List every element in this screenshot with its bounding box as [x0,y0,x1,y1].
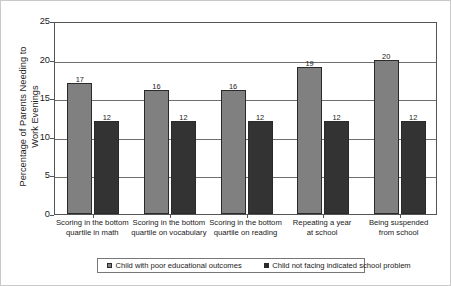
bar-value-label: 16 [141,82,171,91]
bar-value-label: 20 [371,52,401,61]
x-axis-category-label: Scoring in the bottomquartile in math [54,218,131,238]
bar[interactable] [401,121,426,214]
bar[interactable] [144,90,169,214]
y-axis-title-line-2: Work Evenings [29,17,41,217]
bar[interactable] [297,67,322,214]
x-axis-category-label-line: Repeating a year [284,218,361,228]
bar-value-label: 17 [65,75,95,84]
x-axis-category-label-line: Scoring in the bottom [54,218,131,228]
bar-chart-figure: Percentage of Parents Needing to Work Ev… [0,0,451,286]
y-axis-title: Percentage of Parents Needing to Work Ev… [18,17,41,217]
x-axis-category-label-line: at school [284,228,361,238]
y-axis-title-line-1: Percentage of Parents Needing to [18,17,30,217]
bar[interactable] [248,121,273,214]
x-axis-category-label: Scoring in the bottomquartile on vocabul… [131,218,208,238]
bar[interactable] [374,60,399,214]
x-axis-category-label-line: from school [360,228,437,238]
bar[interactable] [324,121,349,214]
x-axis-category-label-line: Scoring in the bottom [207,218,284,228]
bar-value-label: 12 [245,113,275,122]
x-axis-category-label-line: Scoring in the bottom [131,218,208,228]
x-axis-category-label: Repeating a yearat school [284,218,361,238]
legend-swatch-icon-series-b [264,263,269,268]
legend-label-series-b: Child not facing indicated school proble… [272,261,410,270]
y-axis-tick-mark [50,215,54,216]
bar-value-label: 12 [322,113,352,122]
legend-entry-series-a: Child with poor educational outcomes [107,261,242,270]
bar-value-label: 16 [218,82,248,91]
x-axis-category-label: Being suspendedfrom school [360,218,437,238]
x-axis-category-label-line: Being suspended [360,218,437,228]
legend-swatch-icon-series-a [107,263,112,268]
chart-legend: Child with poor educational outcomes Chi… [97,258,365,273]
legend-label-series-a: Child with poor educational outcomes [116,261,242,270]
bar[interactable] [94,121,119,214]
x-axis-category-label-line: quartile on vocabulary [131,228,208,238]
x-axis-category-label: Scoring in the bottomquartile on reading [207,218,284,238]
bar-value-label: 19 [295,59,325,68]
bar[interactable] [171,121,196,214]
bar-value-label: 12 [92,113,122,122]
x-axis-category-labels: Scoring in the bottomquartile in mathSco… [54,218,437,248]
bar-value-label: 12 [398,113,428,122]
x-axis-category-label-line: quartile in math [54,228,131,238]
bar-value-label: 12 [168,113,198,122]
legend-entry-series-b: Child not facing indicated school proble… [264,261,411,270]
bar[interactable] [221,90,246,214]
x-axis-category-label-line: quartile on reading [207,228,284,238]
plot-area: 17121612161219122012 [54,22,437,215]
bar[interactable] [67,83,92,214]
